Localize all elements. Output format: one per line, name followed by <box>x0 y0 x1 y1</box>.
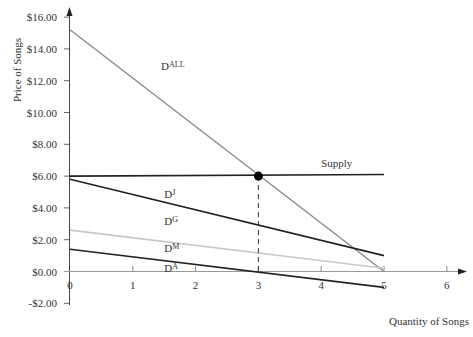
y-tick-label: $14.00 <box>27 43 58 55</box>
y-tick-label: $10.00 <box>27 107 58 119</box>
y-axis-arrow-icon <box>67 7 73 16</box>
y-tick-label: $6.00 <box>32 170 57 182</box>
curve-labels: DALLSupplyDJDGDMDA <box>161 60 353 275</box>
curve-d-a <box>70 249 384 287</box>
axes <box>64 7 467 305</box>
curve-label-d-all: DALL <box>161 60 185 72</box>
x-tick-label: 0 <box>67 279 73 291</box>
demand-supply-chart: $16.00$14.00$12.00$10.00$8.00$6.00$4.00$… <box>0 0 473 337</box>
x-tick-label: 2 <box>193 279 199 291</box>
x-axis-title: Quantity of Songs <box>389 315 469 327</box>
y-axis-ticks: $16.00$14.00$12.00$10.00$8.00$6.00$4.00$… <box>27 11 70 309</box>
curve-label-d-j: DJ <box>164 188 175 200</box>
y-tick-label: $4.00 <box>32 202 57 214</box>
equilibrium-point <box>254 172 263 181</box>
y-tick-label: $2.00 <box>32 234 57 246</box>
y-tick-label: -$2.00 <box>29 297 58 309</box>
y-tick-label: $0.00 <box>32 266 57 278</box>
x-tick-label: 5 <box>381 279 387 291</box>
curve-label-d-m: DM <box>164 242 179 254</box>
curve-label-d-a: DA <box>164 262 178 274</box>
x-tick-label: 6 <box>444 279 450 291</box>
x-axis-arrow-icon <box>458 269 467 275</box>
curve-label-d-g: DG <box>164 215 178 227</box>
curve-supply <box>70 175 384 177</box>
y-tick-label: $12.00 <box>27 75 58 87</box>
curve-label-supply: Supply <box>321 157 353 169</box>
x-tick-label: 1 <box>130 279 136 291</box>
x-tick-label: 3 <box>256 279 262 291</box>
y-tick-label: $16.00 <box>27 11 58 23</box>
y-tick-label: $8.00 <box>32 138 57 150</box>
y-axis-title: Price of Songs <box>11 38 23 102</box>
curve-d-j <box>70 179 384 255</box>
